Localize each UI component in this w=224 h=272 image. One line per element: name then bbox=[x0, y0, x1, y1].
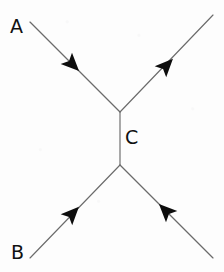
particle-label-a: A bbox=[10, 17, 23, 36]
feynman-diagram-canvas: A B C bbox=[0, 0, 224, 272]
particle-label-b: B bbox=[11, 243, 24, 262]
arrowhead-outgoing-top-right bbox=[155, 53, 179, 77]
diagram-vector-layer bbox=[0, 0, 224, 272]
propagator-label-c: C bbox=[125, 128, 138, 147]
